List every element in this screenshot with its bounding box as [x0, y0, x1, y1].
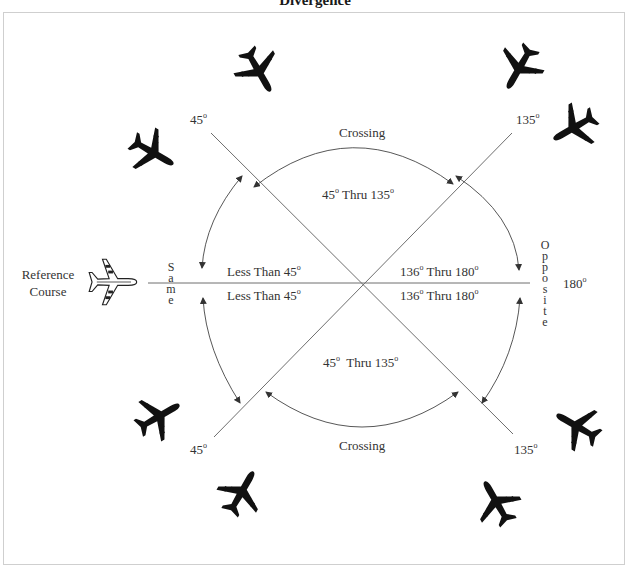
degree-symbol: o	[536, 111, 540, 120]
degree-symbol: o	[534, 441, 538, 450]
crossing-top-range: 45o Thru 135o	[322, 186, 394, 203]
airplane-silhouette-icon	[465, 470, 528, 534]
degree-symbol: o	[203, 441, 207, 450]
angle-upper-right: 135o	[516, 111, 540, 128]
degree-symbol: o	[394, 354, 398, 363]
degree-symbol: o	[297, 287, 301, 296]
range-end: Thru 180	[424, 288, 475, 303]
reference-line2: Course	[18, 283, 78, 300]
degree-symbol: o	[475, 263, 479, 272]
range-start: 45	[322, 187, 335, 202]
degree-symbol: o	[203, 111, 207, 120]
crossing-bottom-arc	[266, 392, 458, 427]
opposite-bottom-range: 136o Thru 180o	[400, 287, 479, 304]
course-lines	[148, 133, 530, 437]
angle-lower-right: 135o	[514, 441, 538, 458]
range-start: 45	[323, 355, 336, 370]
crossing-bottom-label: Crossing	[339, 438, 385, 454]
opposite-bottom-arc	[482, 298, 520, 403]
angle-upper-left: 45o	[190, 111, 207, 128]
range-start: 136	[400, 288, 420, 303]
reference-course-label: Reference Course	[18, 266, 78, 300]
divergence-diagram	[0, 0, 630, 568]
angle-value: 135	[516, 112, 536, 127]
crossing-top-arc	[254, 148, 453, 187]
airplane-silhouette-icon	[210, 460, 273, 524]
opposite-zone-label: O p p o s i t e	[539, 240, 551, 328]
airplane-silhouette-icon	[121, 121, 185, 184]
angle-value: 45	[190, 442, 203, 457]
angle-right: 180o	[563, 275, 587, 292]
range-end: Thru 135	[340, 355, 394, 370]
airplane-silhouette-icon	[488, 36, 551, 100]
crossing-bottom-range: 45o Thru 135o	[323, 354, 398, 371]
reference-line1: Reference	[18, 266, 78, 283]
same-bottom-range: Less Than 45o	[227, 287, 301, 304]
same-top-range: Less Than 45o	[227, 263, 301, 280]
same-zone-label: S a m e	[165, 262, 177, 306]
degree-symbol: o	[475, 287, 479, 296]
diagonal-135-45-line	[214, 133, 512, 437]
degree-symbol: o	[390, 186, 394, 195]
airplane-silhouette-icon	[545, 395, 609, 458]
degree-symbol: o	[583, 275, 587, 284]
same-top-arc	[202, 176, 242, 268]
airplane-silhouette-icon	[227, 39, 290, 103]
range-text: Less Than 45	[227, 264, 297, 279]
range-start: 136	[400, 264, 420, 279]
angle-value: 135	[514, 442, 534, 457]
opposite-top-arc	[456, 176, 519, 270]
angle-lower-left: 45o	[190, 441, 207, 458]
angle-value: 45	[190, 112, 203, 127]
angle-value: 180	[563, 276, 583, 291]
crossing-top-label: Crossing	[339, 125, 385, 141]
range-end: Thru 180	[424, 264, 475, 279]
range-end: Thru 135	[339, 187, 390, 202]
range-text: Less Than 45	[227, 288, 297, 303]
opposite-letter: e	[539, 317, 551, 328]
degree-symbol: o	[297, 263, 301, 272]
reference-airplane-icon	[89, 259, 137, 305]
airplane-silhouette-icon	[542, 96, 606, 159]
airplane-silhouette-icon	[127, 385, 191, 448]
opposite-top-range: 136o Thru 180o	[400, 263, 479, 280]
same-letter: e	[165, 295, 177, 306]
same-bottom-arc	[203, 298, 240, 403]
